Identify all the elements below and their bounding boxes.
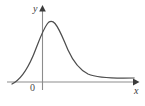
plot-canvas [0, 0, 145, 106]
y-axis-label: y [33, 4, 37, 14]
graph-figure: y x 0 [0, 0, 145, 106]
x-axis-label: x [134, 86, 138, 96]
y-axis-arrow-icon [39, 5, 46, 12]
origin-label: 0 [30, 83, 35, 93]
bell-curve-path [12, 21, 134, 84]
